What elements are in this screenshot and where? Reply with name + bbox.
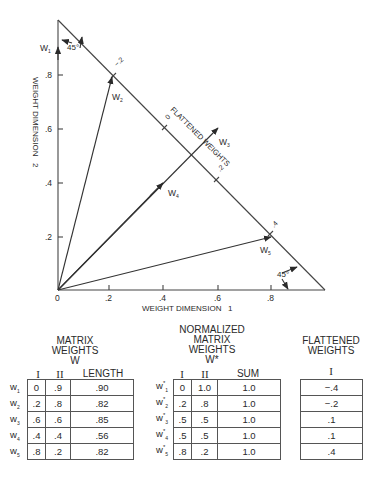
cell: .82	[71, 396, 134, 412]
table-row: −.4	[301, 380, 363, 396]
cell: .9	[46, 380, 71, 396]
table-row: 0.9.90	[28, 380, 134, 396]
column-header: LENGTH	[72, 368, 134, 379]
cell: 1.0	[218, 412, 281, 428]
row-label: w5	[10, 445, 20, 458]
row-label: w*2	[156, 396, 168, 409]
row-label: w4	[10, 429, 20, 442]
cell: .8	[192, 396, 218, 412]
cell: .90	[71, 380, 134, 396]
cell: .8	[46, 396, 71, 412]
table-row: .6.6.85	[28, 412, 134, 428]
vector-label-w4: W4	[168, 188, 179, 199]
row-label: w*5	[156, 444, 168, 457]
row-label: w*1	[156, 380, 168, 393]
cell: .4	[46, 428, 71, 444]
row-label: w*4	[156, 428, 168, 441]
cell: .2	[28, 396, 46, 412]
cell: .2	[174, 396, 192, 412]
vector-label-w5: W5	[260, 245, 271, 256]
y-tick-label: .6	[45, 124, 52, 134]
vector-label-w3: W3	[219, 137, 230, 148]
row-label: w2	[10, 397, 20, 410]
normalized-weights-table: 01.01.0 .2.81.0 .5.51.0 .5.51.0 .8.21.0	[173, 379, 281, 460]
cell: .6	[28, 412, 46, 428]
cell: 0	[174, 380, 192, 396]
title-line: WEIGHTS	[296, 346, 366, 356]
y-axis-label: WEIGHT DIMENSION 2	[31, 77, 40, 168]
column-header: SUM	[218, 368, 278, 379]
table-row: .2.81.0	[174, 396, 281, 412]
x-axis-label: WEIGHT DIMENSION 1	[142, 304, 233, 313]
y-tick-label: .4	[45, 178, 52, 188]
title-line: W	[40, 356, 110, 366]
table-row: .4.4.56	[28, 428, 134, 444]
x-tick-label: .8	[267, 293, 274, 303]
table-row: .8.2.82	[28, 444, 134, 460]
title-line: W*	[172, 355, 252, 365]
vector-w4	[58, 183, 163, 290]
table-row: 01.01.0	[174, 380, 281, 396]
cell: .8	[28, 444, 46, 460]
cell: .2	[192, 444, 218, 460]
table-row: .1	[301, 412, 363, 428]
vector-w5	[58, 237, 271, 290]
cell: .1	[301, 412, 363, 428]
cell: 0	[28, 380, 46, 396]
row-label: w*3	[156, 412, 168, 425]
cell: .6	[46, 412, 71, 428]
row-label: w1	[10, 381, 20, 394]
cell: 1.0	[218, 444, 281, 460]
y-tick-label: .8	[45, 70, 52, 80]
table-row: .8.21.0	[174, 444, 281, 460]
cell: 1.0	[218, 380, 281, 396]
cell: .5	[192, 412, 218, 428]
angle-label-top: 45°	[67, 43, 79, 52]
cell: .82	[71, 444, 134, 460]
flattened-weights-title: FLATTENED WEIGHTS	[296, 336, 366, 356]
cell: −.2	[301, 396, 363, 412]
row-label: w3	[10, 413, 20, 426]
table-row: .1	[301, 428, 363, 444]
angle-label-bottom: 45°	[277, 270, 289, 279]
flattened-tick-label: −.2	[113, 56, 125, 68]
flattened-tick-label: 0	[164, 113, 172, 121]
normalized-weights-title: NORMALIZED MATRIX WEIGHTS W*	[172, 325, 252, 365]
cell: .2	[46, 444, 71, 460]
vector-label-w2: W2	[112, 92, 123, 103]
matrix-weights-table: 0.9.90 .2.8.82 .6.6.85 .4.4.56 .8.2.82	[27, 379, 134, 460]
table-row: .4	[301, 444, 363, 460]
cell: .5	[192, 428, 218, 444]
cell: .4	[28, 428, 46, 444]
vector-w2	[58, 77, 112, 290]
cell: .5	[174, 412, 192, 428]
weight-space-diagram: 0 .2 .4 .6 .8 .2 .4 .6 .8 WEIGHT DIMENSI…	[0, 0, 381, 315]
matrix-weights-title: MATRIX WEIGHTS W	[40, 336, 110, 366]
cell: .4	[301, 444, 363, 460]
cell: .85	[71, 412, 134, 428]
cell: 1.0	[192, 380, 218, 396]
x-tick-label: .6	[214, 293, 221, 303]
x-tick-label: .2	[105, 293, 112, 303]
x-tick-label: .4	[159, 293, 166, 303]
vector-label-w1: W1	[40, 43, 51, 54]
table-row: .2.8.82	[28, 396, 134, 412]
y-tick-label: .2	[45, 232, 52, 242]
table-row: −.2	[301, 396, 363, 412]
flattened-weights-table: −.4 −.2 .1 .1 .4	[300, 379, 363, 460]
cell: −.4	[301, 380, 363, 396]
x-tick-label: 0	[55, 293, 60, 303]
cell: .5	[174, 428, 192, 444]
cell: 1.0	[218, 396, 281, 412]
cell: 1.0	[218, 428, 281, 444]
cell: .1	[301, 428, 363, 444]
table-row: .5.51.0	[174, 412, 281, 428]
cell: .8	[174, 444, 192, 460]
column-header: I	[300, 365, 362, 377]
flattened-tick-label: .4	[270, 220, 279, 229]
table-row: .5.51.0	[174, 428, 281, 444]
cell: .56	[71, 428, 134, 444]
